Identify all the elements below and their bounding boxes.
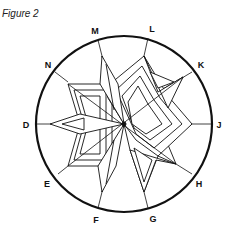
figure: Figure 2 <box>0 0 233 232</box>
label-j: J <box>216 120 221 130</box>
star-circle-diagram <box>0 0 233 232</box>
label-m: M <box>91 26 99 36</box>
label-h: H <box>196 179 203 189</box>
label-f: F <box>93 215 99 225</box>
label-d: D <box>23 120 30 130</box>
label-n: N <box>45 60 52 70</box>
label-e: E <box>44 179 50 189</box>
label-k: K <box>198 60 205 70</box>
label-g: G <box>149 214 156 224</box>
label-l: L <box>149 24 155 34</box>
